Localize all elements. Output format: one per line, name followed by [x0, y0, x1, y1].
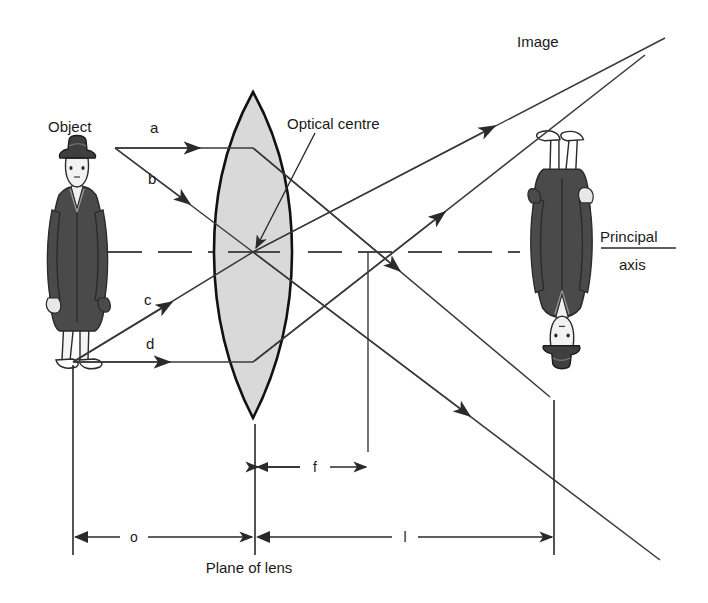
dimension-f: [256, 462, 366, 472]
optical-centre-label: Optical centre: [287, 115, 380, 132]
plane-of-lens-label: Plane of lens: [206, 559, 293, 576]
ray-b-label: b: [148, 170, 156, 187]
ray-diagram-canvas: Object Image Optical centre Principal ax…: [0, 0, 708, 603]
axis-label: axis: [619, 256, 646, 273]
image-label: Image: [517, 33, 559, 50]
ray-a: [115, 148, 550, 397]
object-label: Object: [48, 118, 92, 135]
ray-c-label: c: [144, 291, 152, 308]
diagram-svg: Object Image Optical centre Principal ax…: [0, 0, 708, 603]
dimension-f-label: f: [313, 459, 317, 475]
object-figure: [46, 136, 110, 369]
principal-label: Principal: [600, 228, 658, 245]
dimension-o-label: o: [130, 529, 138, 545]
dimension-o: [74, 531, 252, 543]
lens-shape: [214, 92, 292, 418]
image-figure: [528, 131, 593, 369]
ray-d-label: d: [146, 335, 154, 352]
dimension-l-label: l: [403, 529, 406, 545]
ray-a-label: a: [150, 119, 159, 136]
